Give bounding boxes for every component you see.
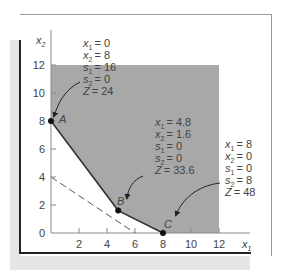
point-a-label: A <box>58 113 66 125</box>
x-tick-label: 2 <box>76 238 82 250</box>
y-tick-label: 4 <box>39 171 45 183</box>
svg-text:Z= 33.6: Z= 33.6 <box>154 164 195 176</box>
feasible-region <box>51 65 219 233</box>
x-tick-label: 12 <box>213 238 225 250</box>
point-c-marker <box>160 230 166 236</box>
svg-text:Z= 48: Z= 48 <box>224 186 255 198</box>
y-tick-label: 8 <box>39 115 45 127</box>
x-tick-label: 8 <box>160 238 166 250</box>
x-tick-label: 6 <box>132 238 138 250</box>
y-tick-label: 10 <box>33 87 45 99</box>
y-tick-label: 2 <box>39 199 45 211</box>
point-b-label: B <box>117 195 124 207</box>
point-a-marker <box>48 118 54 124</box>
annotation-a: x1= 0 x2= 8 s1= 16 s2= 0 Z= 24 <box>82 37 116 97</box>
annotation-c: x1= 8 x2= 0 s1= 0 s2= 8 Z= 48 <box>224 138 255 198</box>
y-tick-label: 6 <box>39 143 45 155</box>
point-c-label: C <box>164 218 172 230</box>
x-axis-label: x1 <box>241 238 252 252</box>
y-tick-label: 0 <box>39 227 45 239</box>
x-tick-label: 10 <box>185 238 197 250</box>
y-tick-label: 12 <box>33 59 45 71</box>
lp-chart: 0 2 4 6 8 10 12 2 4 6 8 10 12 x2 x1 A B … <box>0 0 288 274</box>
x-tick-label: 4 <box>104 238 110 250</box>
svg-text:Z= 24: Z= 24 <box>82 85 113 97</box>
y-axis-label: x2 <box>35 34 46 48</box>
point-b-marker <box>115 208 121 214</box>
